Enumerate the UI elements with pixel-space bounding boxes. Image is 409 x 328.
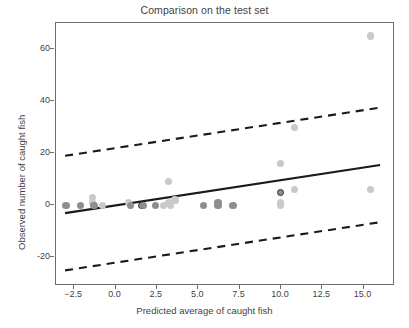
scatter-point bbox=[152, 202, 159, 209]
upper-prediction-band bbox=[65, 108, 380, 156]
y-tick-mark bbox=[50, 256, 54, 257]
scatter-point bbox=[90, 202, 97, 209]
y-tick-mark bbox=[50, 48, 54, 49]
scatter-point bbox=[140, 202, 147, 209]
x-tick-mark bbox=[363, 285, 364, 289]
x-tick-mark bbox=[156, 285, 157, 289]
x-tick-label: 0.0 bbox=[98, 289, 132, 299]
x-tick-label: 7.5 bbox=[222, 289, 256, 299]
x-tick-mark bbox=[321, 285, 322, 289]
y-tick-label: -20 bbox=[24, 251, 50, 261]
scatter-point bbox=[127, 202, 134, 209]
x-tick-label: 10.0 bbox=[263, 289, 297, 299]
x-tick-label: −2.5 bbox=[56, 289, 90, 299]
x-tick-mark bbox=[73, 285, 74, 289]
y-tick-label: 0 bbox=[24, 199, 50, 209]
regression-line bbox=[65, 165, 380, 213]
scatter-point bbox=[171, 196, 178, 203]
y-axis-tick-labels: -200204060 bbox=[20, 0, 50, 328]
x-tick-label: 5.0 bbox=[180, 289, 214, 299]
scatter-point bbox=[229, 202, 236, 209]
y-tick-label: 20 bbox=[24, 147, 50, 157]
y-tick-label: 40 bbox=[24, 95, 50, 105]
y-tick-label: 60 bbox=[24, 43, 50, 53]
x-tick-label: 15.0 bbox=[346, 289, 380, 299]
scatter-point bbox=[99, 202, 106, 209]
scatter-point bbox=[367, 32, 374, 39]
y-tick-mark bbox=[50, 152, 54, 153]
x-tick-mark bbox=[115, 285, 116, 289]
x-tick-label: 2.5 bbox=[139, 289, 173, 299]
x-tick-mark bbox=[197, 285, 198, 289]
scatter-point bbox=[291, 124, 298, 131]
chart-figure: Comparison on the test set Observed numb… bbox=[0, 0, 409, 328]
x-tick-mark bbox=[239, 285, 240, 289]
plot-lines-layer bbox=[56, 23, 394, 285]
plot-area bbox=[55, 22, 394, 285]
x-tick-label: 12.5 bbox=[304, 289, 338, 299]
chart-title: Comparison on the test set bbox=[0, 4, 409, 16]
x-tick-mark bbox=[280, 285, 281, 289]
scatter-point bbox=[62, 202, 69, 209]
scatter-point bbox=[367, 186, 374, 193]
y-tick-mark bbox=[50, 204, 54, 205]
scatter-point bbox=[200, 202, 207, 209]
scatter-point bbox=[214, 202, 221, 209]
scatter-point bbox=[291, 186, 298, 193]
y-tick-mark bbox=[50, 100, 54, 101]
x-axis-label: Predicted average of caught fish bbox=[0, 305, 409, 316]
lower-prediction-band bbox=[65, 222, 380, 270]
